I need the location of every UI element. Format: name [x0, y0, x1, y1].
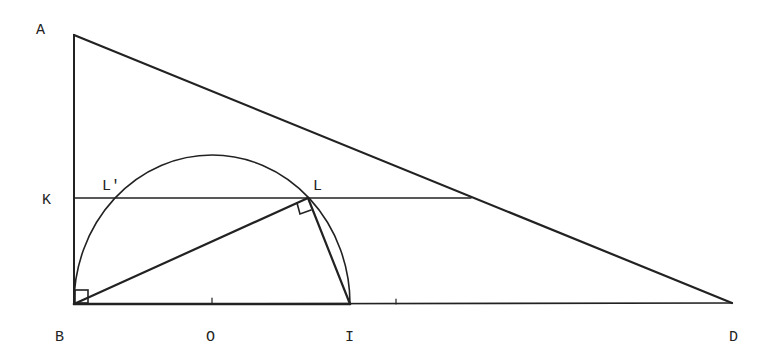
- geometry-diagram: A K L' L B O I D: [0, 0, 776, 360]
- label-i: I: [345, 329, 354, 346]
- label-a: A: [36, 22, 45, 39]
- label-l: L: [313, 178, 322, 195]
- segment-bl: [74, 198, 308, 304]
- label-b: B: [55, 329, 64, 346]
- label-k: K: [42, 192, 51, 209]
- label-o: O: [206, 329, 215, 346]
- segment-ad: [74, 35, 732, 303]
- segment-li: [308, 198, 350, 304]
- right-angle-marker-l: [297, 203, 311, 214]
- label-l-prime: L': [102, 178, 120, 195]
- label-d: D: [729, 329, 738, 346]
